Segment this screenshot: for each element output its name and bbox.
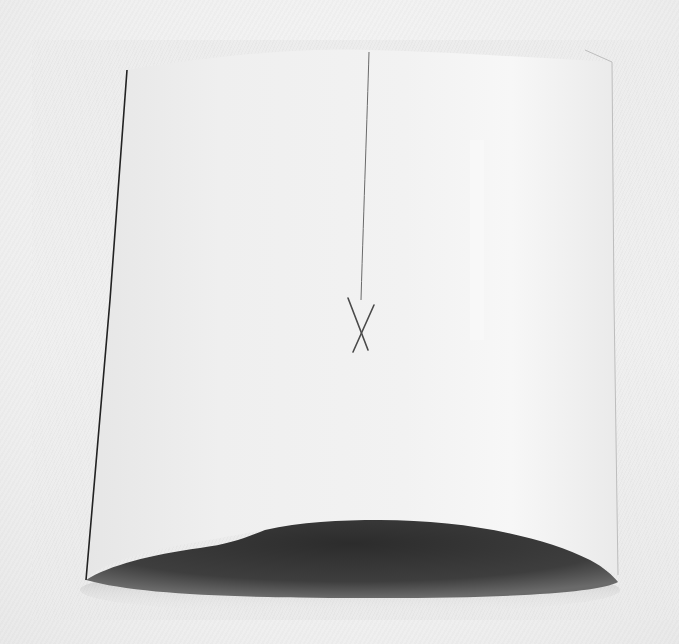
sheet-surface — [86, 49, 618, 580]
photo-scene — [0, 0, 679, 644]
sheet-highlight — [470, 140, 484, 340]
curved-sheet-illustration — [0, 0, 679, 644]
